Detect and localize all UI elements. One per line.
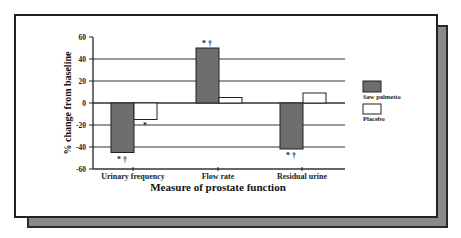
y-tick: 20 <box>79 77 87 86</box>
y-tick: -60 <box>76 165 86 174</box>
x-tick-label: Residual urine <box>277 172 327 181</box>
legend-swatch-saw-palmetto <box>363 81 381 92</box>
y-tick: 60 <box>79 33 87 42</box>
bar-urinary-placebo <box>134 103 157 120</box>
y-tick: 40 <box>79 55 87 64</box>
annotation: * † <box>202 39 212 48</box>
legend-label: Placebo <box>363 115 385 122</box>
y-tick: -20 <box>76 121 86 130</box>
y-tick: -40 <box>76 143 86 152</box>
bar-residual-saw-palmetto <box>280 103 303 149</box>
annotation: * † <box>286 151 296 160</box>
bars <box>111 48 326 153</box>
y-axis: 60 40 20 0 -20 -40 -60 <box>76 33 93 174</box>
y-axis-label: % change from baseline <box>62 51 73 154</box>
bar-flow-placebo <box>219 98 242 104</box>
annotation: * <box>143 121 147 130</box>
bar-residual-placebo <box>303 93 326 103</box>
y-tick: 0 <box>82 99 86 108</box>
x-axis-label: Measure of prostate function <box>150 181 286 193</box>
bar-urinary-saw-palmetto <box>111 103 134 153</box>
annotation: * † <box>117 155 127 164</box>
legend-swatch-placebo <box>363 104 381 114</box>
legend: Saw palmetto Placebo <box>363 81 401 122</box>
x-tick-label: Urinary frequency <box>101 172 165 181</box>
legend-label: Saw palmetto <box>363 93 401 100</box>
x-tick-label: Flow rate <box>202 172 235 181</box>
bar-chart: 60 40 20 0 -20 -40 -60 % change from bas… <box>0 0 461 238</box>
bar-flow-saw-palmetto <box>196 48 219 103</box>
